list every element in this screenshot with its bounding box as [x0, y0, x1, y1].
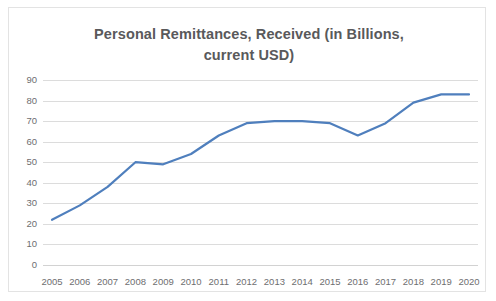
series-layer	[0, 0, 496, 301]
data-series-line[interactable]	[52, 94, 469, 219]
plot-area: 0102030405060708090200520062007200820092…	[0, 0, 496, 301]
